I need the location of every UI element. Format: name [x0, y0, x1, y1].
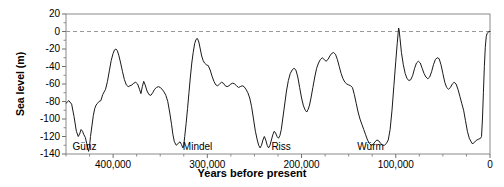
- glacial-stage-label: Riss: [271, 141, 290, 152]
- y-axis-tick-label: 0: [26, 26, 60, 37]
- glacial-stage-label: Würm: [357, 141, 384, 152]
- x-axis-tick-label: 200,000: [272, 159, 332, 170]
- x-axis-tick-label: 0: [460, 159, 504, 170]
- data-series-line: [66, 28, 490, 151]
- y-axis-title: Sea level (m): [14, 52, 26, 116]
- x-axis-tick-label: 400,000: [83, 159, 143, 170]
- x-axis-title: Years before present: [0, 167, 504, 179]
- plot-area: [0, 0, 504, 187]
- y-axis-tick-label: -100: [26, 113, 60, 124]
- x-axis-tick-label: 100,000: [366, 159, 426, 170]
- x-axis-tick-label: 300,000: [177, 159, 237, 170]
- glacial-stage-label: Günz: [73, 141, 97, 152]
- y-axis-tick-label: -20: [26, 43, 60, 54]
- glacial-stage-label: Mindel: [183, 141, 212, 152]
- y-axis-tick-label: 20: [26, 8, 60, 19]
- sea-level-chart: Sea level (m) Years before present 200-2…: [0, 0, 504, 187]
- y-axis-tick-label: -120: [26, 131, 60, 142]
- y-axis-tick-label: -80: [26, 96, 60, 107]
- plot-frame: [66, 14, 490, 154]
- y-axis-tick-label: -60: [26, 78, 60, 89]
- y-axis-tick-label: -140: [26, 148, 60, 159]
- y-axis-tick-label: -40: [26, 61, 60, 72]
